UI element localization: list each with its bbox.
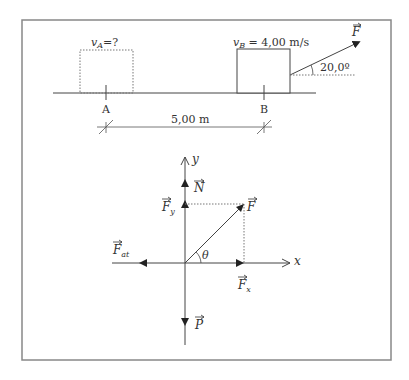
theta-arc	[196, 252, 201, 263]
velocity-A-label: vA=?	[91, 36, 118, 50]
normal-arrowhead	[181, 179, 189, 187]
point-B-label: B	[260, 103, 268, 116]
top-scene: A B vA=? vB = 4,00 m/s F 20,0º 5,00 m	[53, 23, 361, 134]
friction-label: Fat	[112, 243, 130, 259]
physics-diagram: A B vA=? vB = 4,00 m/s F 20,0º 5,00 m y	[0, 0, 409, 380]
distance-label: 5,00 m	[171, 113, 210, 126]
angle-arc	[311, 65, 313, 75]
free-body-diagram: y x N Fy F θ Fx	[112, 152, 301, 345]
y-axis-label: y	[191, 152, 199, 166]
normal-label: N	[193, 181, 205, 195]
velocity-B-label: vB = 4,00 m/s	[233, 36, 309, 50]
weight-label: P	[194, 318, 204, 332]
weight-arrowhead	[181, 318, 189, 326]
x-axis-label: x	[294, 254, 301, 268]
angle-label: 20,0º	[320, 61, 350, 74]
friction-arrowhead	[139, 259, 147, 267]
force-F-label: F	[351, 25, 361, 39]
theta-label: θ	[202, 249, 209, 262]
force-y-label: Fy	[161, 200, 175, 216]
force-x-arrowhead	[236, 259, 244, 267]
force-vector	[185, 207, 241, 263]
force-label: F	[246, 200, 256, 214]
point-A-label: A	[101, 103, 111, 116]
force-x-label: Fx	[237, 278, 251, 294]
